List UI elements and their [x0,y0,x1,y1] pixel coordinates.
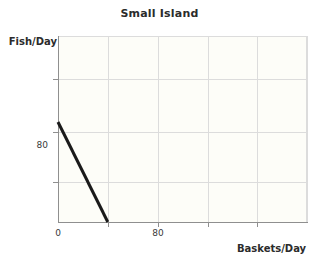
chart-figure: Small Island 80 0 80 Fish/Day Baskets/Da… [0,0,319,263]
ppf-line [58,122,108,222]
data-series-layer [0,0,319,263]
